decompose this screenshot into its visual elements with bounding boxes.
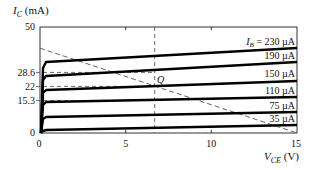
y-tick-15-3: 15.3 — [18, 95, 36, 106]
q-point-label: Q — [157, 74, 165, 85]
characteristic-curves — [41, 48, 297, 133]
x-tick-0: 0 — [37, 138, 42, 149]
x-axis-label: VCE (V) — [264, 150, 299, 165]
y-tick-0: 0 — [30, 127, 35, 138]
transistor-characteristic-chart: IC (mA) 50 28.6 22 15.3 0 0 5 10 15 VCE … — [0, 0, 313, 170]
curve-label-75: 75 µA — [270, 100, 296, 111]
x-tick-10: 10 — [206, 138, 216, 149]
y-tick-28-6: 28.6 — [18, 67, 36, 78]
curve-label-110: 110 µA — [265, 85, 296, 96]
y-axis-label: IC (mA) — [12, 4, 49, 19]
curve-label-230: IB = 230 µA — [245, 36, 296, 49]
curve-label-35: 35 µA — [270, 113, 296, 124]
curve-ib-35 — [41, 125, 297, 133]
tick-marks — [126, 27, 212, 133]
curve-label-190: 190 µA — [265, 50, 296, 61]
curve-label-150: 150 µA — [265, 68, 296, 79]
curve-labels: IB = 230 µA 190 µA 150 µA 110 µA 75 µA 3… — [245, 36, 296, 124]
y-tick-22: 22 — [25, 81, 35, 92]
y-tick-50: 50 — [25, 21, 35, 32]
x-tick-15: 15 — [291, 138, 301, 149]
y-tick-labels: 50 28.6 22 15.3 0 — [18, 21, 36, 138]
x-tick-5: 5 — [123, 138, 128, 149]
x-tick-labels: 0 5 10 15 — [37, 138, 302, 149]
curve-ib-230 — [41, 48, 297, 133]
